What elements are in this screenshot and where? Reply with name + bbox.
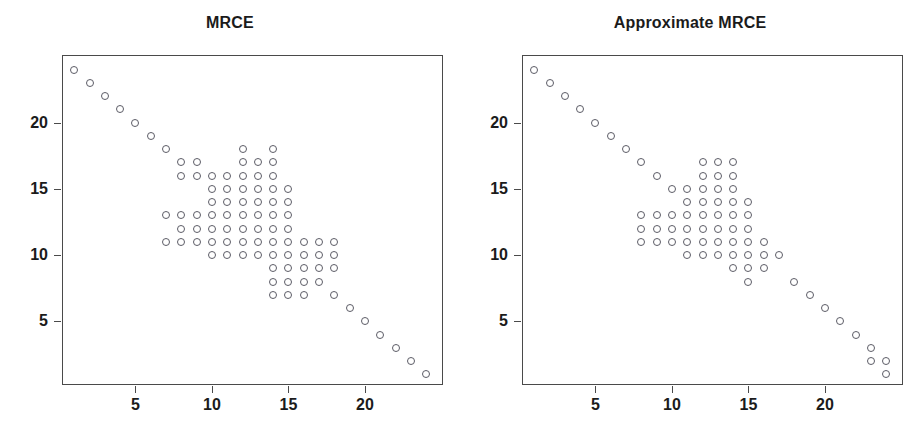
y-axis-tick-label: 5 [10, 312, 48, 330]
data-point [208, 198, 216, 206]
data-point [208, 225, 216, 233]
x-axis-tick [748, 386, 749, 393]
data-point [254, 185, 262, 193]
data-point [223, 211, 231, 219]
data-point [239, 225, 247, 233]
data-point [239, 185, 247, 193]
x-axis-tick [595, 386, 596, 393]
data-point [315, 251, 323, 259]
x-axis-tick [288, 386, 289, 393]
data-point [744, 238, 752, 246]
data-point [699, 211, 707, 219]
y-axis-tick-label: 15 [470, 180, 508, 198]
data-point [239, 158, 247, 166]
y-axis-tick-label: 10 [470, 246, 508, 264]
x-axis-tick [135, 386, 136, 393]
data-point [254, 158, 262, 166]
data-point [208, 185, 216, 193]
data-point [223, 251, 231, 259]
data-point [744, 278, 752, 286]
data-point [668, 225, 676, 233]
data-point [637, 238, 645, 246]
data-point [330, 264, 338, 272]
data-point [683, 211, 691, 219]
data-point [775, 251, 783, 259]
data-point [836, 317, 844, 325]
data-point [653, 172, 661, 180]
data-point [760, 251, 768, 259]
y-axis-tick-label: 10 [10, 246, 48, 264]
data-point [223, 172, 231, 180]
data-point [269, 264, 277, 272]
data-point [422, 370, 430, 378]
data-point [729, 225, 737, 233]
data-point [162, 145, 170, 153]
data-point [867, 357, 875, 365]
data-point [284, 264, 292, 272]
data-point [561, 92, 569, 100]
data-point [101, 92, 109, 100]
data-point [254, 211, 262, 219]
data-point [852, 331, 860, 339]
data-point [269, 291, 277, 299]
data-point [729, 251, 737, 259]
data-point [269, 278, 277, 286]
data-point [162, 211, 170, 219]
data-point [714, 172, 722, 180]
data-point [729, 264, 737, 272]
data-point [254, 251, 262, 259]
sparsity-pattern-figure: MRCE 51015205101520 Approximate MRCE 510… [0, 0, 920, 448]
y-axis-tick [514, 189, 521, 190]
data-point [867, 344, 875, 352]
data-point [315, 238, 323, 246]
data-point [239, 172, 247, 180]
data-point [576, 105, 584, 113]
data-point [330, 251, 338, 259]
data-point [376, 331, 384, 339]
data-point [714, 158, 722, 166]
data-point [653, 238, 661, 246]
data-point [193, 238, 201, 246]
data-point [254, 225, 262, 233]
data-point [284, 225, 292, 233]
data-point [208, 251, 216, 259]
data-point [177, 211, 185, 219]
data-point [622, 145, 630, 153]
data-point [269, 198, 277, 206]
data-point [330, 238, 338, 246]
data-point [193, 211, 201, 219]
data-point [223, 238, 231, 246]
data-point [239, 198, 247, 206]
data-point [208, 211, 216, 219]
data-point [714, 211, 722, 219]
data-point [760, 238, 768, 246]
plot-area-approximate-mrce [522, 55, 903, 385]
y-axis-tick-label: 20 [470, 114, 508, 132]
data-point [284, 278, 292, 286]
data-point [223, 185, 231, 193]
data-point [744, 225, 752, 233]
y-axis-tick [54, 255, 61, 256]
plot-area-mrce [62, 55, 443, 385]
data-point [699, 238, 707, 246]
y-axis-tick [514, 123, 521, 124]
y-axis-tick [54, 123, 61, 124]
y-axis-tick [54, 189, 61, 190]
data-point [269, 158, 277, 166]
data-point [147, 132, 155, 140]
data-point [239, 211, 247, 219]
data-point [546, 79, 554, 87]
data-point [790, 278, 798, 286]
data-point [637, 211, 645, 219]
data-point [300, 291, 308, 299]
data-point [269, 172, 277, 180]
data-point [239, 238, 247, 246]
data-point [300, 251, 308, 259]
x-axis-tick [672, 386, 673, 393]
data-point [744, 211, 752, 219]
data-point [821, 304, 829, 312]
data-point [714, 238, 722, 246]
data-point [284, 198, 292, 206]
data-point [269, 251, 277, 259]
data-point [284, 251, 292, 259]
